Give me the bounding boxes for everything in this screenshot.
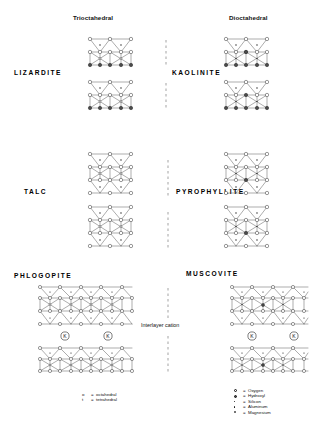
- structure-pyrophyllite-lower: [226, 207, 267, 246]
- magnesium-atoms-lizardite-lower: [99, 101, 122, 103]
- oxygen-atoms-phlogopite: [38, 285, 133, 372]
- aluminum-atoms-pyrophyllite-lower: [235, 226, 257, 227]
- silicon-atoms-kaolinite-upper: [235, 44, 257, 45]
- legend-row-magnesium: = Magnesium: [234, 410, 271, 415]
- silicon-atoms-kaolinite-lower: [235, 87, 257, 88]
- clay-mineral-structure-figure: Trioctahedral Dioctahedral LIZARDITE KAO…: [0, 0, 321, 436]
- magnesium-atoms-talc-upper: [99, 173, 122, 175]
- oxygen-atoms-talc-upper: [88, 152, 132, 194]
- magnesium-atoms-lizardite-upper: [99, 58, 122, 60]
- oxygen-atoms-talc-lower: [88, 205, 132, 247]
- legend-text-magnesium: Magnesium: [248, 410, 271, 415]
- hydroxyl-atoms-kaolinite-upper: [224, 50, 268, 66]
- magnesium-icon: [234, 410, 243, 415]
- structure-pyrophyllite-upper: [226, 154, 267, 193]
- structure-phlogopite-main: [40, 287, 132, 371]
- structure-talc-upper: [90, 154, 131, 193]
- oxygen-atoms-pyrophyllite-lower: [224, 205, 268, 247]
- interlayer-spacing-markers: [166, 40, 168, 372]
- hydroxyl-atoms-muscovite: [262, 304, 265, 367]
- hydroxyl-atoms-pyrophyllite-lower: [244, 231, 247, 234]
- aluminum-atoms-kaolinite-upper: [235, 58, 257, 59]
- aluminum-atoms-pyrophyllite-upper: [235, 173, 257, 174]
- aluminum-atoms-kaolinite-lower: [235, 101, 257, 102]
- legend-text-tetrahedral: tetrahedral: [96, 397, 117, 402]
- hydroxyl-atoms-pyrophyllite-upper: [244, 178, 247, 181]
- legend-symbol-tetrahedral: t: [82, 397, 91, 402]
- oxygen-atoms-muscovite: [230, 285, 305, 372]
- interlayer-cations-phlogopite: K K: [61, 332, 112, 340]
- magnesium-atoms-talc-lower: [99, 226, 122, 228]
- aluminum-atoms-muscovite: [242, 304, 284, 366]
- silicon-atoms-lizardite-lower: [99, 87, 121, 88]
- structure-drawings-canvas: K K K K: [0, 0, 321, 436]
- legend-row-tetrahedral: t = tetrahedral: [82, 397, 117, 402]
- silicon-atoms-lizardite-upper: [99, 44, 121, 45]
- legend-atom-types: = Oxygen = Hydroxyl = Silicon = Aluminum: [234, 388, 271, 415]
- legend-sheet-types: o = octahedral t = tetrahedral: [82, 392, 117, 403]
- hydroxyl-atoms-kaolinite-lower: [224, 93, 268, 109]
- structure-talc-lower: [90, 207, 131, 246]
- interlayer-cations-muscovite: K K: [248, 332, 298, 340]
- oxygen-atoms-pyrophyllite-upper: [224, 152, 268, 194]
- atom-nodes: [38, 37, 305, 372]
